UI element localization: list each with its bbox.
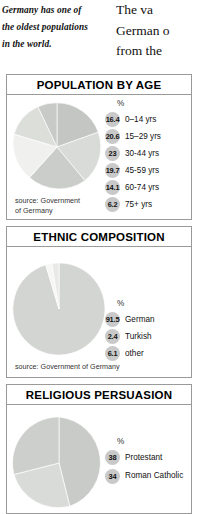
legend-item-0-14-yrs: 16.4 0–14 yrs xyxy=(105,111,193,128)
legend-item-45-59-yrs: 19.7 45-59 yrs xyxy=(105,162,193,179)
legend-item-label: Roman Catholic xyxy=(125,471,185,481)
panel-body-population-by-age: % 16.4 0–14 yrs 20.6 15–29 yrs 23 30-44 … xyxy=(7,95,191,220)
legend-item-label: German xyxy=(125,315,155,325)
legend-item-label: 30-44 yrs xyxy=(125,149,159,159)
legend-religious-persuasion: % 38 Protestant 34 Roman Catholic xyxy=(105,437,193,486)
legend-item-other: 6.1 other xyxy=(105,345,193,362)
legend-population-by-age: % 16.4 0–14 yrs 20.6 15–29 yrs 23 30-44 … xyxy=(105,99,193,213)
pie-chart-population-by-age xyxy=(11,101,103,193)
legend-value-badge: 23 xyxy=(105,146,120,161)
legend-item-label: Protestant xyxy=(125,453,162,463)
legend-item-15-29-yrs: 20.6 15–29 yrs xyxy=(105,128,193,145)
legend-percent-header: % xyxy=(117,299,193,309)
panel-title: RELIGIOUS PERSUASION xyxy=(26,389,173,401)
panel-body-religious-persuasion: % 38 Protestant 34 Roman Catholic xyxy=(7,405,191,514)
article-left-line-1: Germany has one of xyxy=(2,2,96,19)
legend-item-label: 45-59 yrs xyxy=(125,166,159,176)
source-note-ethnic-composition: source: Government of Germany xyxy=(15,362,185,372)
article-right-line-2: German o xyxy=(116,21,216,42)
panel-header-ethnic-composition: ETHNIC COMPOSITION xyxy=(7,227,191,247)
legend-percent-header: % xyxy=(117,437,193,447)
legend-item-label: 0–14 yrs xyxy=(125,115,156,125)
legend-item-75-plus-yrs: 6.2 75+ yrs xyxy=(105,196,193,213)
legend-item-turkish: 2.4 Turkish xyxy=(105,328,193,345)
article-right-line-1: The va xyxy=(116,0,216,21)
panel-header-population-by-age: POPULATION BY AGE xyxy=(7,75,191,95)
pie-svg xyxy=(11,261,107,357)
legend-ethnic-composition: % 91.5 German 2.4 Turkish 6.1 other xyxy=(105,299,193,362)
legend-item-label: Turkish xyxy=(125,332,152,342)
panel-population-by-age: POPULATION BY AGE % 16.4 xyxy=(6,74,192,220)
legend-item-german: 91.5 German xyxy=(105,311,193,328)
legend-value-badge: 16.4 xyxy=(105,112,120,127)
legend-item-roman-catholic: 34 Roman Catholic xyxy=(105,466,193,486)
legend-value-badge: 38 xyxy=(105,450,120,465)
source-line-1: source: Government of Germany xyxy=(15,362,185,372)
legend-item-60-74-yrs: 14.1 60-74 yrs xyxy=(105,179,193,196)
article-right-column: The va German o from the xyxy=(116,0,216,62)
pie-chart-ethnic-composition xyxy=(11,261,107,357)
legend-item-label: other xyxy=(125,349,144,359)
legend-value-badge: 91.5 xyxy=(105,312,120,327)
pie-chart-religious-persuasion xyxy=(11,415,107,511)
legend-value-badge: 14.1 xyxy=(105,180,120,195)
legend-item-protestant: 38 Protestant xyxy=(105,449,193,466)
source-note-population-by-age: source: Government of Germany xyxy=(15,196,105,215)
source-line-1: source: Government xyxy=(15,196,105,206)
legend-value-badge: 6.2 xyxy=(105,197,120,212)
legend-item-label: 60-74 yrs xyxy=(125,183,159,193)
article-left-column: Germany has one of the oldest population… xyxy=(2,2,96,53)
legend-percent-header: % xyxy=(117,99,193,109)
legend-item-label: 75+ yrs xyxy=(125,200,152,210)
pie-svg xyxy=(11,415,107,511)
panel-ethnic-composition: ETHNIC COMPOSITION % 91.5 German 2.4 Tur… xyxy=(6,226,192,378)
legend-value-badge: 20.6 xyxy=(105,129,120,144)
panel-title: POPULATION BY AGE xyxy=(37,79,162,91)
legend-value-badge: 34 xyxy=(105,469,120,484)
article-left-line-3: in the world. xyxy=(2,36,96,53)
panel-title: ETHNIC COMPOSITION xyxy=(33,231,164,243)
legend-item-30-44-yrs: 23 30-44 yrs xyxy=(105,145,193,162)
legend-value-badge: 2.4 xyxy=(105,329,120,344)
article-right-line-3: from the xyxy=(116,41,216,62)
panel-religious-persuasion: RELIGIOUS PERSUASION % 38 Protestant 34 … xyxy=(6,384,192,514)
panel-body-ethnic-composition: % 91.5 German 2.4 Turkish 6.1 other sour… xyxy=(7,247,191,378)
article-left-line-2: the oldest populations xyxy=(2,19,96,36)
legend-value-badge: 19.7 xyxy=(105,163,120,178)
panel-header-religious-persuasion: RELIGIOUS PERSUASION xyxy=(7,385,191,405)
pie-svg xyxy=(11,101,103,193)
article-text-block: Germany has one of the oldest population… xyxy=(0,0,200,70)
legend-value-badge: 6.1 xyxy=(105,346,120,361)
legend-item-label: 15–29 yrs xyxy=(125,132,161,142)
source-line-2: of Germany xyxy=(15,206,105,216)
